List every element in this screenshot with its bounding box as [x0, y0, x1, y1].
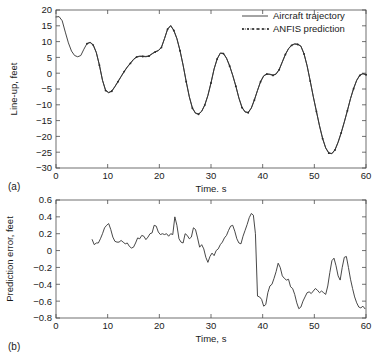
y-axis-title: Line-up, feet — [8, 62, 19, 115]
series-marker — [291, 44, 293, 46]
series-marker — [235, 85, 237, 87]
y-tick-label: 10 — [41, 36, 52, 47]
legend-label: ANFIS prediction — [273, 23, 345, 34]
series-marker — [198, 113, 200, 115]
y-tick-label: 0.2 — [39, 228, 52, 239]
x-tick-label: 60 — [361, 170, 372, 181]
y-tick-label: −25 — [36, 147, 52, 158]
series-marker — [353, 88, 355, 90]
y-tick-label: 20 — [41, 4, 52, 15]
series-marker — [260, 81, 262, 83]
x-axis-title: Time, s — [196, 183, 227, 192]
series-marker — [346, 110, 348, 112]
series-marker — [117, 81, 119, 83]
series-marker — [222, 53, 224, 55]
y-tick-label: −20 — [36, 131, 52, 142]
x-tick-label: 10 — [102, 170, 113, 181]
series-marker — [179, 50, 181, 52]
series-marker — [322, 138, 324, 140]
x-tick-label: 60 — [361, 320, 372, 331]
y-tick-label: 5 — [47, 52, 52, 63]
series-marker — [111, 90, 113, 92]
y-tick-label: −0.8 — [33, 312, 52, 323]
y-tick-label: −0.2 — [33, 262, 52, 273]
series-marker — [160, 47, 162, 49]
series-marker — [154, 51, 156, 53]
x-tick-label: 0 — [53, 320, 58, 331]
series-marker — [136, 56, 138, 58]
series-marker — [334, 149, 336, 151]
x-tick-label: 0 — [53, 170, 58, 181]
series-marker — [303, 53, 305, 55]
series-marker — [328, 152, 330, 154]
series-marker — [247, 112, 249, 114]
series-marker — [98, 64, 100, 66]
y-tick-label: 0.4 — [39, 211, 52, 222]
chart-b-svg: 01020304050600.60.40.20−0.2−0.4−0.6−0.8T… — [0, 192, 381, 356]
series-marker — [148, 55, 150, 57]
y-tick-label: 0.6 — [39, 194, 52, 205]
figure-container: 010203040506020151050−5−10−15−20−25−30Ti… — [0, 0, 381, 356]
legend-swatch-marker — [252, 28, 254, 30]
series-marker — [359, 74, 361, 76]
y-tick-label: 15 — [41, 20, 52, 31]
legend-swatch-marker — [262, 28, 264, 30]
legend-swatch-marker — [242, 28, 244, 30]
legend-swatch-marker — [247, 28, 249, 30]
y-tick-label: −0.4 — [33, 279, 52, 290]
series-marker — [86, 43, 88, 45]
x-tick-label: 20 — [154, 320, 165, 331]
series-marker — [167, 28, 169, 30]
series-marker — [216, 58, 218, 60]
y-tick-label: −5 — [41, 83, 52, 94]
series-marker — [340, 132, 342, 134]
y-tick-label: −10 — [36, 99, 52, 110]
y-tick-label: −30 — [36, 162, 52, 173]
y-tick-label: −0.6 — [33, 296, 52, 307]
x-tick-label: 30 — [206, 170, 217, 181]
series-marker — [284, 54, 286, 56]
series-marker — [191, 107, 193, 109]
y-tick-label: 0 — [47, 68, 52, 79]
series-marker — [278, 69, 280, 71]
series-marker — [92, 44, 94, 46]
legend-swatch-marker — [257, 28, 259, 30]
panel-label: (a) — [8, 181, 20, 192]
plot-frame — [56, 200, 366, 318]
legend-swatch-marker — [267, 28, 269, 30]
chart-panel-a: 010203040506020151050−5−10−15−20−25−30Ti… — [0, 0, 381, 192]
series-marker — [253, 99, 255, 101]
x-tick-label: 40 — [257, 320, 268, 331]
series-marker — [105, 90, 107, 92]
series-marker — [297, 43, 299, 45]
series-marker — [210, 82, 212, 84]
x-tick-label: 50 — [309, 170, 320, 181]
series-marker — [129, 62, 131, 64]
y-tick-label: 0 — [47, 245, 52, 256]
series-marker — [266, 73, 268, 75]
series-marker — [315, 110, 317, 112]
series-marker — [272, 74, 274, 76]
y-tick-label: −15 — [36, 115, 52, 126]
series-marker — [204, 104, 206, 106]
x-tick-label: 20 — [154, 170, 165, 181]
x-tick-label: 50 — [309, 320, 320, 331]
series-marker — [185, 81, 187, 83]
series-marker — [142, 56, 144, 58]
chart-panel-b: 01020304050600.60.40.20−0.2−0.4−0.6−0.8T… — [0, 192, 381, 356]
series-marker — [123, 71, 125, 73]
series-marker — [309, 80, 311, 82]
x-tick-label: 40 — [257, 170, 268, 181]
series-marker — [241, 107, 243, 109]
x-tick-label: 30 — [206, 320, 217, 331]
series-marker — [173, 30, 175, 32]
chart-a-svg: 010203040506020151050−5−10−15−20−25−30Ti… — [0, 0, 381, 192]
series-marker — [229, 65, 231, 67]
legend-label: Aircraft trajectory — [273, 10, 345, 21]
series-marker — [365, 74, 367, 76]
panel-label: (b) — [8, 341, 20, 352]
x-tick-label: 10 — [102, 320, 113, 331]
y-axis-title: Prediction error, feet — [4, 216, 15, 302]
x-axis-title: Time, s — [196, 333, 227, 344]
